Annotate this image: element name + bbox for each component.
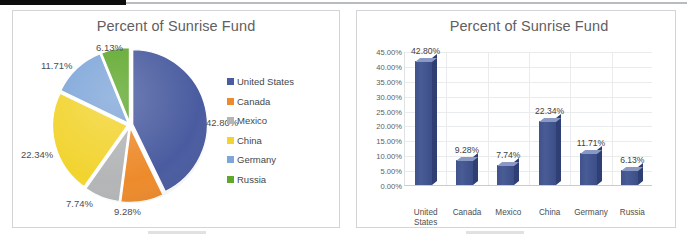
legend-item[interactable]: United States (227, 76, 294, 87)
pie-label-germany: 11.71% (41, 60, 73, 71)
bar-shape[interactable] (621, 167, 643, 185)
bar-column[interactable]: 7.74% (488, 150, 529, 185)
bar-chart-container[interactable]: Percent of Sunrise Fund 0.00%5.00%10.00%… (356, 10, 676, 228)
bar-shape[interactable] (580, 150, 602, 185)
legend-item-label: Germany (237, 154, 276, 165)
x-axis-category-label: China (529, 208, 570, 218)
pie-chart-title: Percent of Sunrise Fund (13, 18, 339, 34)
legend-swatch-icon (227, 137, 234, 144)
pie-label-china: 22.34% (21, 149, 53, 160)
bar-column[interactable]: 9.28% (446, 145, 487, 185)
bar-column[interactable]: 42.80% (405, 46, 446, 185)
legend-swatch-icon (227, 176, 234, 183)
y-axis-tick-label: 30.00% (376, 92, 402, 101)
legend-item[interactable]: Canada (227, 96, 294, 107)
y-axis-tick-label: 40.00% (376, 62, 402, 71)
x-axis-category-label: Canada (446, 208, 487, 218)
pie-chart-legend: United StatesCanadaMexicoChinaGermanyRus… (227, 76, 294, 185)
legend-item[interactable]: Russia (227, 174, 294, 185)
bar-front-face (539, 121, 556, 185)
bar-chart-title: Percent of Sunrise Fund (357, 18, 675, 34)
pie-slices (53, 48, 208, 203)
legend-item[interactable]: Germany (227, 154, 294, 165)
x-axis-category-label: United States (405, 208, 446, 228)
bar-shape[interactable] (497, 162, 519, 185)
legend-item-label: United States (237, 76, 294, 87)
legend-item-label: Russia (237, 174, 266, 185)
pie-chart-plot-area: 42.80% 9.28% 7.74% 22.34% 11.71% 6.13% U… (13, 34, 339, 220)
bar-side-face (556, 115, 561, 185)
bar-plot-grid[interactable]: 0.00%5.00%10.00%15.00%20.00%25.00%30.00%… (404, 52, 652, 186)
legend-item[interactable]: Mexico (227, 115, 294, 126)
bar-shape[interactable] (456, 157, 478, 185)
y-axis-tick-label: 10.00% (376, 152, 402, 161)
bar-front-face (580, 153, 597, 185)
bar-column[interactable]: 6.13% (612, 155, 653, 185)
pie-label-mexico: 7.74% (66, 198, 93, 209)
bar-side-face (432, 54, 437, 185)
x-axis-category-label: Russia (612, 208, 653, 218)
bar-shape[interactable] (539, 118, 561, 185)
scan-artifact-bottom-right (466, 231, 524, 234)
legend-item-label: Canada (237, 96, 270, 107)
legend-swatch-icon (227, 117, 234, 124)
scan-artifact-top-line (126, 2, 687, 4)
bar-front-face (497, 165, 514, 185)
x-axis-category-label: Germany (570, 208, 611, 218)
scan-artifact-bottom-left (148, 231, 206, 234)
legend-swatch-icon (227, 156, 234, 163)
pie-label-russia: 6.13% (96, 42, 123, 53)
pie-chart-container[interactable]: Percent of Sunrise Fund 42.80% 9.28% 7.7… (12, 10, 340, 228)
y-axis-tick-label: 15.00% (376, 137, 402, 146)
bar-front-face (415, 61, 432, 185)
bar-front-face (456, 160, 473, 185)
legend-item-label: China (237, 135, 262, 146)
scan-artifact-top-black (0, 0, 126, 5)
bar-shape[interactable] (415, 58, 437, 185)
legend-item[interactable]: China (227, 135, 294, 146)
y-axis-tick-label: 25.00% (376, 107, 402, 116)
y-axis-tick-label: 0.00% (380, 182, 402, 191)
legend-item-label: Mexico (237, 115, 267, 126)
legend-swatch-icon (227, 78, 234, 85)
bar-column[interactable]: 22.34% (529, 106, 570, 185)
legend-swatch-icon (227, 98, 234, 105)
y-axis-tick-label: 5.00% (380, 167, 402, 176)
pie-label-canada: 9.28% (114, 206, 141, 217)
y-axis-tick-label: 45.00% (376, 48, 402, 57)
y-axis-tick-label: 35.00% (376, 77, 402, 86)
bar-chart-plot-area: 0.00%5.00%10.00%15.00%20.00%25.00%30.00%… (357, 34, 675, 220)
bar-column[interactable]: 11.71% (570, 138, 611, 185)
x-axis-category-label: Mexico (488, 208, 529, 218)
y-axis-tick-label: 20.00% (376, 122, 402, 131)
bar-front-face (621, 170, 638, 185)
